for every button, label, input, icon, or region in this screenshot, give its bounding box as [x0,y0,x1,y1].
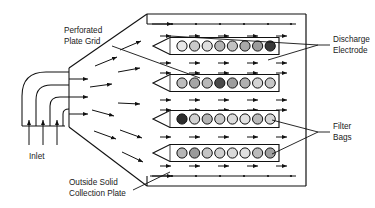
plenum-flow-arrows [90,41,143,162]
label-discharge-electrode-line2: Electrode [333,46,368,55]
filter-bag[interactable] [227,114,237,124]
filter-bag[interactable] [265,78,275,88]
label-discharge-electrode-line1: Discharge [333,35,370,44]
plenum-flow-arrow-8 [120,130,142,138]
filter-bag[interactable] [253,41,263,51]
electrode-bottom-node-1 [171,175,173,177]
perforated-plate-grid [69,68,88,127]
filter-bag-row-2[interactable] [153,75,279,92]
filter-bag[interactable] [215,148,225,158]
filter-bag[interactable] [190,114,200,124]
filter-bag-row-3[interactable] [153,111,279,128]
filter-bag-row-4[interactable] [153,145,279,162]
electrode-bottom-node-2 [195,175,197,177]
plenum-flow-arrow-4 [118,68,140,72]
label-filter-bags-line1: Filter [333,122,351,131]
plenum-flow-arrow-1 [95,57,117,66]
leader-filter-bags-lower [272,132,318,154]
electrode-top-node-2 [195,23,197,25]
filter-bag[interactable] [227,41,237,51]
filter-bag[interactable] [253,78,263,88]
inlet-duct [22,72,69,145]
label-perforated-plate-grid-line1: Perforated [64,26,103,35]
inlet-duct-outer-wall [22,72,69,126]
filter-bag[interactable] [202,114,212,124]
filter-bag[interactable] [177,114,187,124]
filter-bag[interactable] [240,78,250,88]
filter-bag[interactable] [240,41,250,51]
filter-bag[interactable] [202,148,212,158]
discharge-electrode-top [147,23,296,25]
plenum-flow-arrow-5 [92,110,114,116]
inlet-duct-inner-wall [63,109,69,126]
filter-bag[interactable] [202,41,212,51]
filter-bag[interactable] [190,78,200,88]
filter-bag[interactable] [177,41,187,51]
filter-bag-row-1[interactable] [153,38,279,55]
electrode-bottom-node-5 [267,175,269,177]
filter-bag[interactable] [253,114,263,124]
electrode-bottom-node-3 [219,175,221,177]
filter-bag[interactable] [240,114,250,124]
plenum-flow-arrow-9 [122,152,143,162]
plenum-flow-arrow-3 [90,84,112,87]
filter-bag[interactable] [253,148,263,158]
plenum-flow-arrow-2 [120,41,141,50]
label-filter-bags-line2: Bags [333,133,352,142]
leader-outside-solid-collection-plate [133,172,170,190]
filter-bag[interactable] [265,114,275,124]
filter-bag[interactable] [177,148,187,158]
filter-bag[interactable] [240,148,250,158]
filter-bag[interactable] [227,78,237,88]
discharge-electrode-bottom [150,175,296,177]
electrode-top-node-1 [171,23,173,25]
filter-bag[interactable] [202,78,212,88]
label-inlet: Inlet [29,152,45,161]
plenum-flow-arrow-6 [118,103,140,104]
filter-bag[interactable] [190,148,200,158]
filter-bag[interactable] [190,41,200,51]
electrode-top-node-6 [290,23,292,25]
diagram-root: Perforated Plate Grid Inlet Outside Soli… [0,0,375,208]
electrode-bottom-node-4 [243,175,245,177]
filter-bag[interactable] [177,78,187,88]
filter-bag-rows [153,38,279,162]
filter-bag[interactable] [215,114,225,124]
filter-bag[interactable] [215,78,225,88]
plenum-flow-arrow-7 [94,131,116,139]
filter-bag[interactable] [215,41,225,51]
electrode-top-node-5 [267,23,269,25]
label-outside-solid-collection-plate-line1: Outside Solid [69,178,118,187]
baghouse-schematic: Perforated Plate Grid Inlet Outside Soli… [0,0,375,208]
label-outside-solid-collection-plate-line2: Collection Plate [69,189,126,198]
label-perforated-plate-grid-line2: Plate Grid [64,37,101,46]
electrode-bottom-node-6 [290,175,292,177]
electrode-top-node-3 [219,23,221,25]
filter-bag[interactable] [227,148,237,158]
inlet-duct-mid-wall-2 [50,97,69,126]
inlet-duct-mid-wall-1 [36,85,69,126]
electrode-top-node-4 [243,23,245,25]
